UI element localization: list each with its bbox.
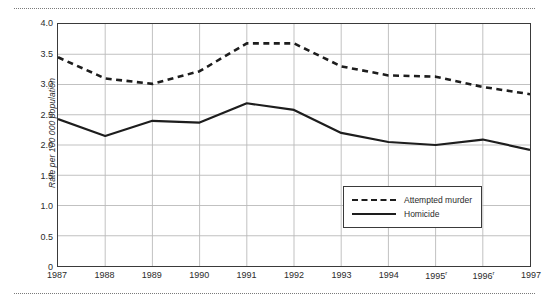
y-tick-label: 2.0 (40, 140, 53, 150)
dashed-line-swatch-icon (352, 195, 396, 205)
x-tick-label: 1994 (379, 270, 399, 280)
x-axis-tick-labels: 198719881989199019911992199319941995r199… (57, 270, 531, 286)
plot-area (57, 23, 531, 267)
chart-figure: Rate per 100 000 population 00.51.01.52.… (0, 0, 545, 304)
top-dotted-rule (14, 8, 535, 9)
solid-line-swatch-icon (352, 209, 396, 219)
chart-canvas (58, 24, 530, 266)
y-axis-tick-labels: 00.51.01.52.02.53.03.54.0 (14, 23, 53, 267)
legend-label-homicide: Homicide (404, 209, 439, 219)
x-tick-label: 1991 (237, 270, 257, 280)
legend-item-attempted-murder: Attempted murder (352, 193, 472, 207)
legend-label-attempted-murder: Attempted murder (404, 195, 472, 205)
tick-superscript-marker: r (445, 270, 447, 276)
y-tick-label: 2.5 (40, 110, 53, 120)
y-tick-label: 3.5 (40, 49, 53, 59)
x-tick-label: 1989 (142, 270, 162, 280)
x-tick-label: 1995r (425, 270, 447, 281)
y-tick-label: 0.5 (40, 232, 53, 242)
x-tick-label: 1993 (331, 270, 351, 280)
x-tick-label: 1988 (94, 270, 114, 280)
bottom-dotted-rule (14, 293, 535, 294)
y-tick-label: 1.0 (40, 201, 53, 211)
legend-item-homicide: Homicide (352, 207, 472, 221)
y-tick-label: 1.5 (40, 171, 53, 181)
x-tick-label: 1997 (521, 270, 541, 280)
chart-legend: Attempted murder Homicide (343, 186, 482, 228)
y-tick-label: 3.0 (40, 79, 53, 89)
x-tick-label: 1987 (47, 270, 67, 280)
x-tick-label: 1992 (284, 270, 304, 280)
tick-superscript-marker: r (493, 270, 495, 276)
plot-area-wrapper (57, 23, 531, 267)
x-tick-label: 1990 (189, 270, 209, 280)
y-tick-label: 4.0 (40, 18, 53, 28)
x-tick-label: 1996r (473, 270, 495, 281)
